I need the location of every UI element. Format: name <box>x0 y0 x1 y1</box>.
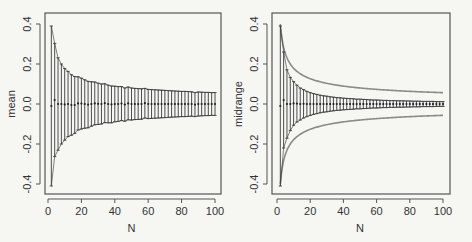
data-point <box>130 103 132 105</box>
data-point <box>286 103 288 105</box>
data-point <box>326 103 328 105</box>
data-point <box>191 103 193 105</box>
data-point <box>127 102 129 104</box>
data-point <box>54 99 56 101</box>
data-point <box>422 103 424 105</box>
y-tick-label: 0.2 <box>248 56 260 71</box>
data-point <box>376 103 378 105</box>
data-point <box>356 103 358 105</box>
data-point <box>197 103 199 105</box>
data-point <box>329 103 331 105</box>
data-point <box>316 103 318 105</box>
data-point <box>204 103 206 105</box>
data-point <box>107 103 109 105</box>
data-point <box>110 103 112 105</box>
data-point <box>359 103 361 105</box>
data-point <box>435 103 437 105</box>
data-point <box>157 103 159 105</box>
data-point <box>201 103 203 105</box>
data-point <box>137 103 139 105</box>
data-point <box>342 103 344 105</box>
x-tick-label: 0 <box>274 205 280 217</box>
data-point <box>399 103 401 105</box>
data-point <box>117 103 119 105</box>
data-point <box>409 103 411 105</box>
y-tick-label: -0.2 <box>248 135 260 154</box>
data-point <box>60 103 62 105</box>
data-point <box>124 104 126 106</box>
data-point <box>140 103 142 105</box>
data-point <box>160 103 162 105</box>
data-point <box>309 103 311 105</box>
data-point <box>419 103 421 105</box>
data-point <box>184 103 186 105</box>
data-point <box>90 103 92 105</box>
data-point <box>389 103 391 105</box>
data-point <box>147 103 149 105</box>
data-point <box>177 103 179 105</box>
y-tick-label: -0.2 <box>21 135 33 154</box>
data-point <box>362 103 364 105</box>
figure: 020406080100N-0.4-0.20.00.20.4mean 02040… <box>0 0 472 242</box>
mean-panel: 020406080100N-0.4-0.20.00.20.4mean <box>5 13 224 234</box>
data-point <box>382 103 384 105</box>
y-tick-label: -0.4 <box>21 175 33 194</box>
data-point <box>336 103 338 105</box>
data-point <box>187 103 189 105</box>
data-point <box>412 103 414 105</box>
data-point <box>425 103 427 105</box>
data-point <box>439 103 441 105</box>
bar-tip-envelope-upper <box>280 26 443 102</box>
data-point <box>415 103 417 105</box>
data-point <box>299 103 301 105</box>
data-point <box>366 103 368 105</box>
data-point <box>120 103 122 105</box>
x-axis-label: N <box>128 222 136 234</box>
x-axis-label: N <box>356 222 364 234</box>
data-point <box>194 104 196 106</box>
y-tick-label: -0.4 <box>248 175 260 194</box>
data-point <box>319 103 321 105</box>
x-tick-label: 80 <box>175 205 187 217</box>
data-point <box>87 104 89 106</box>
data-point <box>64 103 66 105</box>
reference-curve-lower <box>280 115 443 184</box>
data-point <box>279 105 281 107</box>
x-tick-label: 0 <box>45 205 51 217</box>
data-point <box>372 103 374 105</box>
data-point <box>144 102 146 104</box>
data-point <box>97 103 99 105</box>
data-point <box>306 103 308 105</box>
x-tick-label: 100 <box>434 205 452 217</box>
data-point <box>402 103 404 105</box>
data-point <box>302 103 304 105</box>
data-point <box>77 102 79 104</box>
reference-curve-upper <box>280 24 443 93</box>
data-point <box>296 103 298 105</box>
x-tick-label: 60 <box>142 205 154 217</box>
data-point <box>114 103 116 105</box>
data-point <box>50 105 52 107</box>
x-tick-label: 80 <box>404 205 416 217</box>
data-point <box>211 103 213 105</box>
data-point <box>339 103 341 105</box>
data-point <box>369 103 371 105</box>
data-point <box>94 102 96 104</box>
data-point <box>104 102 106 104</box>
data-point <box>154 103 156 105</box>
two-panel-errorbar-chart: 020406080100N-0.4-0.20.00.20.4mean 02040… <box>0 0 472 242</box>
bar-tip-envelope-upper <box>51 26 215 93</box>
data-point <box>429 103 431 105</box>
y-axis-label: mean <box>5 90 17 118</box>
y-tick-label: 0.4 <box>248 16 260 31</box>
bar-tip-envelope-lower <box>51 115 215 186</box>
data-point <box>289 103 291 105</box>
data-point <box>352 103 354 105</box>
data-point <box>293 102 295 104</box>
data-point <box>181 103 183 105</box>
data-point <box>312 103 314 105</box>
data-point <box>170 103 172 105</box>
midrange-panel: 020406080100N-0.4-0.20.00.20.4midrange <box>232 13 452 234</box>
x-tick-label: 40 <box>109 205 121 217</box>
data-point <box>100 103 102 105</box>
